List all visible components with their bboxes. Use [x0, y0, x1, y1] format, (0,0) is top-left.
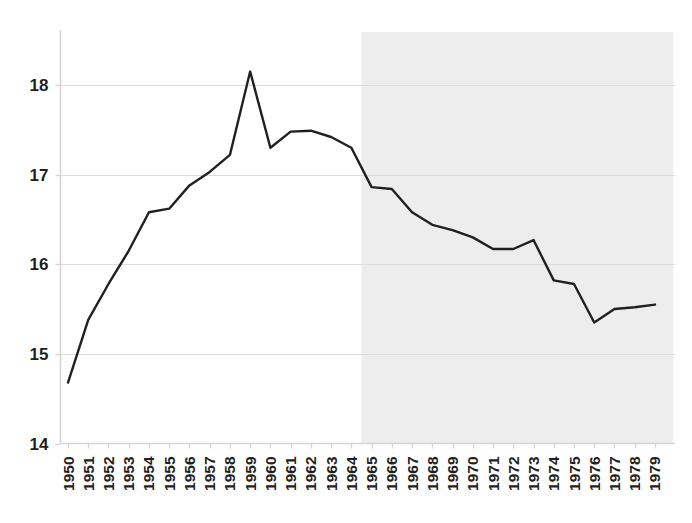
x-tick-label: 1962	[302, 457, 319, 491]
x-tick-label: 1965	[363, 456, 380, 491]
x-tick-label: 1958	[221, 456, 238, 491]
y-tick-label: 15	[30, 345, 49, 364]
x-tick-label: 1961	[282, 456, 299, 491]
x-tick-label: 1978	[626, 456, 643, 491]
shaded-region	[361, 32, 673, 444]
x-tick-label: 1970	[464, 457, 481, 491]
x-tick-label: 1959	[242, 456, 259, 491]
x-tick-label: 1968	[424, 456, 441, 491]
y-tick-label: 14	[30, 435, 49, 454]
x-tick-label: 1972	[505, 457, 522, 491]
x-tick-label: 1954	[140, 456, 157, 491]
x-tick-label: 1957	[201, 457, 218, 491]
y-tick-label: 17	[30, 166, 49, 185]
x-tick-label: 1963	[323, 456, 340, 491]
x-tick-label: 1971	[485, 456, 502, 491]
x-tick-label: 1956	[181, 456, 198, 491]
x-tick-label: 1976	[586, 456, 603, 491]
x-tick-label: 1960	[262, 457, 279, 491]
x-tick-label: 1952	[100, 457, 117, 491]
x-tick-label: 1950	[60, 457, 77, 491]
x-tick-label: 1969	[444, 456, 461, 491]
x-tick-label: 1977	[606, 457, 623, 491]
x-tick-label: 1955	[161, 456, 178, 491]
line-chart: 1415161718 19501951195219531954195519561…	[0, 0, 692, 523]
shaded-region-rect	[361, 32, 673, 444]
x-tick-label: 1975	[566, 456, 583, 491]
x-tick-label: 1951	[80, 456, 97, 491]
y-tick-label: 18	[30, 76, 49, 95]
x-tick-label: 1953	[120, 456, 137, 491]
chart-canvas: 1415161718 19501951195219531954195519561…	[0, 0, 692, 523]
x-tick-label: 1966	[383, 456, 400, 491]
x-tick-label: 1979	[646, 456, 663, 491]
y-tick-label: 16	[30, 255, 49, 274]
x-tick-label: 1967	[404, 457, 421, 491]
x-tick-label: 1964	[343, 456, 360, 491]
x-tick-label: 1973	[525, 456, 542, 491]
x-tick-label: 1974	[545, 456, 562, 491]
